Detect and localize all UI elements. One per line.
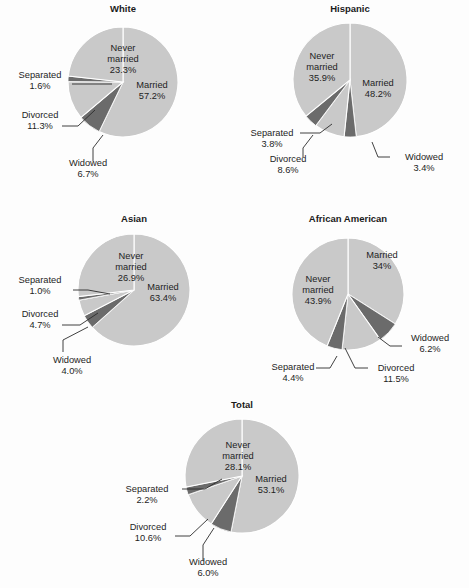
label-text: 6.7%: [77, 169, 98, 179]
label-text: married: [306, 62, 338, 72]
label-text: Widowed: [53, 355, 91, 365]
label-separated-white: Separated1.6%: [19, 70, 62, 91]
label-divorced-total: Divorced10.6%: [130, 522, 167, 543]
label-text: Never: [306, 274, 331, 284]
label-separated-hispanic: Separated3.8%: [251, 128, 294, 149]
label-text: Separated: [19, 70, 62, 80]
label-text: married: [115, 262, 147, 272]
label-separated-african_american: Separated4.4%: [272, 362, 315, 383]
label-text: 1.0%: [29, 286, 50, 296]
label-text: married: [302, 285, 334, 295]
label-widowed-asian: Widowed4.0%: [53, 355, 91, 376]
leader-line-divorced-total: [175, 519, 208, 536]
label-separated-asian: Separated1.0%: [19, 275, 62, 296]
label-text: married: [222, 451, 254, 461]
label-divorced-asian: Divorced4.7%: [22, 309, 59, 330]
label-separated-total: Separated2.2%: [126, 484, 169, 505]
label-text: Married: [362, 78, 394, 88]
label-text: 34%: [373, 261, 392, 271]
label-text: Separated: [251, 128, 294, 138]
label-text: Married: [136, 80, 168, 90]
chart-title-asian: Asian: [121, 213, 147, 224]
leader-line-widowed-hispanic: [372, 142, 390, 157]
label-text: Separated: [272, 362, 315, 372]
label-text: 4.0%: [61, 366, 82, 376]
label-text: 10.6%: [135, 533, 161, 543]
label-text: Widowed: [189, 557, 227, 567]
label-text: 63.4%: [150, 293, 176, 303]
leader-line-widowed-asian: [63, 327, 88, 352]
label-widowed-total: Widowed6.0%: [189, 557, 227, 578]
chart-title-white: White: [110, 3, 136, 14]
label-text: Widowed: [69, 158, 107, 168]
label-text: 3.4%: [413, 163, 434, 173]
label-text: Divorced: [22, 309, 59, 319]
label-text: 4.7%: [29, 320, 50, 330]
leader-line-divorced-african_american: [345, 348, 368, 368]
label-text: 8.6%: [277, 165, 298, 175]
label-text: 48.2%: [365, 89, 391, 99]
label-text: married: [107, 54, 139, 64]
label-text: 23.3%: [110, 65, 136, 75]
label-never-married-hispanic: Nevermarried35.9%: [306, 51, 338, 83]
label-text: 3.8%: [261, 139, 282, 149]
label-text: Divorced: [130, 522, 167, 532]
label-text: Married: [147, 282, 179, 292]
label-text: Never: [226, 440, 251, 450]
label-text: Divorced: [22, 110, 59, 120]
label-text: Married: [255, 474, 287, 484]
chart-title-african_american: African American: [309, 213, 388, 224]
label-never-married-asian: Nevermarried26.9%: [115, 251, 147, 283]
label-text: 4.4%: [282, 373, 303, 383]
chart-title-hispanic: Hispanic: [330, 3, 370, 14]
label-text: Married: [366, 250, 398, 260]
label-married-white: Married57.2%: [136, 80, 168, 101]
label-text: 1.6%: [29, 81, 50, 91]
label-text: Never: [310, 51, 335, 61]
label-text: 35.9%: [309, 73, 335, 83]
label-widowed-african_american: Widowed6.2%: [411, 333, 449, 354]
leader-line-separated-african_american: [316, 356, 337, 368]
label-divorced-hispanic: Divorced8.6%: [270, 154, 307, 175]
label-text: 28.1%: [225, 462, 251, 472]
label-text: 57.2%: [139, 91, 165, 101]
label-text: Widowed: [411, 333, 449, 343]
label-text: 6.0%: [197, 568, 218, 578]
label-text: 11.5%: [383, 374, 409, 384]
label-text: 53.1%: [258, 485, 284, 495]
label-text: Never: [111, 43, 136, 53]
label-text: 6.2%: [419, 344, 440, 354]
label-text: 43.9%: [305, 296, 331, 306]
label-text: Never: [119, 251, 144, 261]
label-text: 11.3%: [27, 121, 53, 131]
marital-status-pie-chart-figure: WhiteMarried57.2%Nevermarried23.3%Separa…: [0, 0, 469, 588]
label-married-total: Married53.1%: [255, 474, 287, 495]
label-text: Widowed: [405, 152, 443, 162]
label-divorced-african_american: Divorced11.5%: [378, 363, 415, 384]
label-divorced-white: Divorced11.3%: [22, 110, 59, 131]
label-text: 2.2%: [136, 495, 157, 505]
label-text: 26.9%: [118, 273, 144, 283]
label-never-married-african_american: Nevermarried43.9%: [302, 274, 334, 306]
label-text: Separated: [19, 275, 62, 285]
label-never-married-white: Nevermarried23.3%: [107, 43, 139, 75]
label-text: Divorced: [378, 363, 415, 373]
label-widowed-hispanic: Widowed3.4%: [405, 152, 443, 173]
label-text: Divorced: [270, 154, 307, 164]
label-never-married-total: Nevermarried28.1%: [222, 440, 254, 472]
chart-title-total: Total: [231, 399, 253, 410]
label-married-hispanic: Married48.2%: [362, 78, 394, 99]
label-text: Separated: [126, 484, 169, 494]
label-widowed-white: Widowed6.7%: [69, 158, 107, 179]
label-married-asian: Married63.4%: [147, 282, 179, 303]
